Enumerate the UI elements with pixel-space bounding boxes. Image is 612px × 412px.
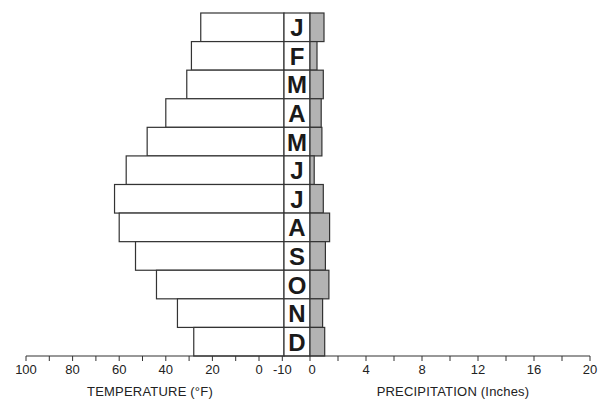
- precipitation-tick-label: 20: [583, 362, 597, 377]
- temperature-bar: [194, 327, 284, 356]
- temperature-tick-label: 100: [15, 362, 37, 377]
- precipitation-bar: [310, 13, 324, 42]
- temperature-bar: [191, 42, 284, 71]
- month-label: O: [288, 272, 307, 299]
- month-row: M: [147, 127, 322, 156]
- precipitation-bar: [310, 70, 323, 99]
- precipitation-tick-label: 12: [471, 362, 485, 377]
- temperature-axis-title: TEMPERATURE (°F): [87, 384, 213, 399]
- month-label: A: [288, 100, 305, 127]
- month-row: J: [201, 13, 324, 42]
- temperature-tick-label: 60: [112, 362, 126, 377]
- month-label: D: [288, 329, 305, 356]
- temperature-bar: [126, 156, 284, 185]
- precipitation-bar: [310, 99, 321, 128]
- precipitation-tick-label: 0: [308, 362, 315, 377]
- month-row: O: [156, 270, 328, 299]
- temperature-bar: [156, 270, 284, 299]
- temperature-bar: [177, 299, 284, 328]
- precipitation-bar: [310, 185, 323, 214]
- axis-ticks: [26, 356, 590, 361]
- precipitation-tick-label: 8: [418, 362, 425, 377]
- temperature-bar: [115, 185, 284, 214]
- month-row: M: [187, 70, 324, 99]
- precipitation-tick-label: 16: [527, 362, 541, 377]
- month-row: J: [126, 156, 314, 185]
- month-label: S: [289, 243, 305, 270]
- temperature-tick-label: -10: [273, 362, 292, 377]
- x-axis: 100806040200-10048121620: [15, 356, 597, 377]
- month-row: S: [136, 242, 326, 271]
- temperature-bar: [201, 13, 284, 42]
- month-label: J: [290, 14, 303, 41]
- month-label: N: [288, 300, 305, 327]
- temperature-tick-label: 0: [255, 362, 262, 377]
- precipitation-bar: [310, 213, 330, 242]
- precipitation-bar: [310, 127, 322, 156]
- precipitation-axis-title: PRECIPITATION (Inches): [377, 384, 530, 399]
- temperature-bar: [119, 213, 284, 242]
- axis-tick-labels: 100806040200-10048121620: [15, 362, 597, 377]
- temperature-tick-label: 20: [205, 362, 219, 377]
- precipitation-bar: [310, 156, 314, 185]
- month-label: J: [290, 186, 303, 213]
- precipitation-tick-label: 4: [362, 362, 369, 377]
- month-row: N: [177, 299, 322, 328]
- temperature-bar: [187, 70, 284, 99]
- month-label: M: [287, 71, 307, 98]
- precipitation-bar: [310, 242, 325, 271]
- precipitation-bar: [310, 299, 323, 328]
- precipitation-bar: [310, 42, 317, 71]
- climograph-chart: JFMAMJJASOND 100806040200-10048121620 TE…: [0, 0, 612, 412]
- month-row: A: [119, 213, 329, 242]
- bars-group: JFMAMJJASOND: [115, 13, 330, 356]
- temperature-tick-label: 40: [159, 362, 173, 377]
- month-label: F: [290, 43, 305, 70]
- temperature-bar: [147, 127, 284, 156]
- temperature-bar: [166, 99, 284, 128]
- precipitation-bar: [310, 327, 325, 356]
- month-label: J: [290, 157, 303, 184]
- temperature-bar: [136, 242, 284, 271]
- month-row: A: [166, 99, 321, 128]
- precipitation-bar: [310, 270, 329, 299]
- month-row: F: [191, 42, 317, 71]
- month-label: A: [288, 214, 305, 241]
- month-row: D: [194, 327, 325, 356]
- month-row: J: [115, 185, 324, 214]
- temperature-tick-label: 80: [65, 362, 79, 377]
- month-label: M: [287, 129, 307, 156]
